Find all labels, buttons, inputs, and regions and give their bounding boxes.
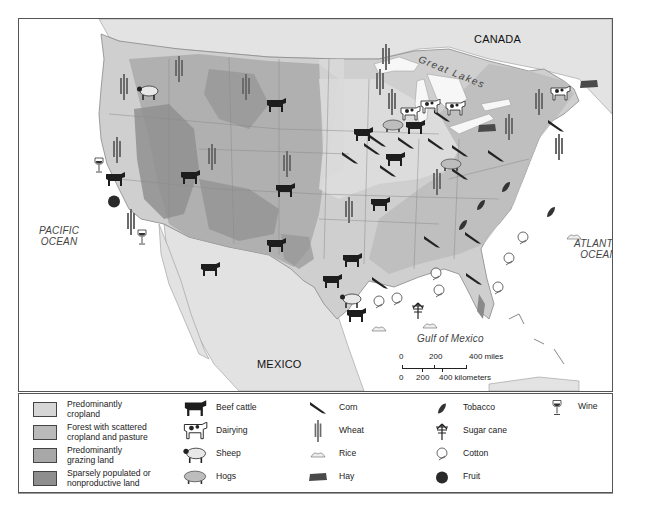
label-atlantic-ocean: ATLANTIC OCEAN (574, 238, 613, 260)
wheat-icon (313, 420, 323, 442)
wine-icon (94, 157, 104, 173)
legend-label: Fruit (463, 472, 480, 482)
legend-item-sheep: Sheep (182, 444, 241, 464)
legend-item-cropland: Predominantly cropland (33, 400, 122, 419)
fruit-icon (107, 194, 121, 208)
cotton-icon (516, 231, 530, 245)
cotton-icon (435, 447, 449, 461)
wheat-icon (504, 114, 514, 140)
sheep-icon (136, 83, 160, 101)
scale-bar: 0 200 400 miles 0 200 400 kilometers (399, 352, 529, 392)
scale-km-400: 400 kilometers (439, 373, 491, 382)
scale-tick (402, 365, 403, 369)
hog-icon (381, 118, 405, 133)
corn-icon (427, 137, 445, 151)
legend-label: Sheep (216, 449, 241, 459)
cotton-icon (429, 267, 443, 281)
legend-label: Rice (339, 449, 356, 459)
legend-item-beef-cattle: Beef cattle (182, 398, 257, 418)
hay-icon (308, 472, 328, 482)
legend-label-line: nonproductive land (67, 479, 151, 489)
label-canada: CANADA (474, 34, 521, 45)
legend-item-grazing: Predominantly grazing land (33, 446, 122, 465)
scale-tick (466, 365, 467, 369)
swatch-forest (33, 425, 57, 440)
rice-icon (371, 324, 387, 332)
beef-cattle-icon (274, 182, 296, 198)
swatch-cropland (33, 402, 57, 417)
legend-item-dairying: Dairying (182, 421, 248, 441)
scale-tick (442, 368, 443, 372)
legend-label: Wheat (339, 426, 364, 436)
sugar-cane-icon (411, 301, 425, 319)
wheat-icon (119, 74, 129, 100)
legend-label: Predominantly grazing land (67, 446, 122, 465)
legend-label: Hay (339, 472, 354, 482)
label-atlantic-line2: OCEAN (574, 249, 613, 260)
beef-cattle-icon (345, 307, 367, 323)
hay-icon (579, 79, 599, 89)
wine-icon (552, 399, 562, 416)
legend-label: Tobacco (463, 403, 495, 413)
legend-label: Wine (578, 402, 598, 412)
corn-icon (423, 235, 441, 249)
swatch-sparse (33, 471, 57, 486)
cotton-icon (432, 284, 446, 298)
wheat-icon (126, 209, 136, 235)
tobacco-icon (476, 199, 486, 211)
legend-label-line: cropland and pasture (67, 433, 148, 443)
wheat-icon (534, 89, 544, 115)
scale-km-0: 0 (399, 373, 403, 382)
sugar-cane-icon (435, 422, 449, 440)
label-pacific-ocean: PACIFIC OCEAN (39, 225, 79, 247)
label-pacific-line2: OCEAN (39, 236, 79, 247)
corn-icon (369, 134, 387, 148)
beef-cattle-icon (341, 252, 363, 268)
legend-item-hay: Hay (305, 467, 354, 487)
corn-icon (465, 272, 483, 286)
legend-label: Beef cattle (216, 403, 257, 413)
legend-item-cotton: Cotton (429, 444, 488, 464)
dairy-cow-icon (419, 99, 441, 114)
swatch-grazing (33, 448, 57, 463)
corn-icon (487, 149, 505, 163)
wheat-icon (112, 137, 122, 163)
wheat-icon (282, 151, 292, 177)
agriculture-map: CANADA Great Lakes PACIFIC OCEAN ATLANTI… (18, 18, 613, 392)
wheat-icon (241, 74, 251, 100)
corn-icon (451, 144, 469, 158)
corn-icon (464, 231, 482, 245)
legend-item-tobacco: Tobacco (429, 398, 495, 418)
label-mexico: MEXICO (257, 359, 302, 370)
legend-label-line: grazing land (67, 456, 122, 466)
corn-icon (379, 164, 397, 178)
sheep-icon (182, 445, 208, 464)
wheat-icon (375, 69, 385, 95)
corn-icon (309, 400, 327, 416)
beef-cattle-icon (104, 171, 126, 187)
wheat-icon (207, 144, 217, 170)
legend-item-sparse: Sparsely populated or nonproductive land (33, 469, 151, 488)
legend-label: Predominantly cropland (67, 400, 122, 419)
beef-cattle-icon (179, 169, 201, 185)
dairy-cow-icon (182, 422, 208, 440)
wheat-icon (432, 169, 442, 195)
hog-icon (182, 469, 208, 485)
cotton-icon (491, 281, 505, 295)
cotton-icon (390, 292, 404, 306)
tobacco-icon (458, 219, 468, 231)
legend-item-corn: Corn (305, 398, 358, 418)
beef-cattle-icon (182, 399, 208, 417)
corn-icon (397, 136, 415, 150)
tobacco-icon (546, 206, 556, 218)
rice-icon (422, 321, 438, 329)
legend-label-line: cropland (67, 410, 122, 420)
corn-icon (371, 276, 389, 290)
wheat-icon (174, 56, 184, 82)
legend-item-forest: Forest with scattered cropland and pastu… (33, 423, 148, 442)
beef-cattle-icon (369, 196, 391, 212)
rice-icon (566, 232, 582, 240)
legend-label: Hogs (216, 472, 236, 482)
tobacco-icon (501, 181, 511, 193)
legend-item-wine: Wine (544, 397, 598, 417)
